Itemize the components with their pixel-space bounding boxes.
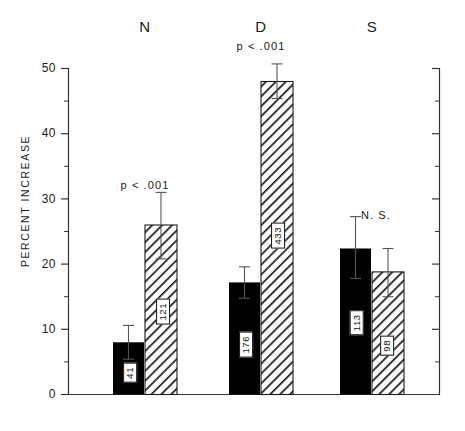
- y-tick-label-10: 10: [30, 322, 56, 336]
- bar-value-label-n-black: 41: [123, 363, 137, 383]
- y-tick-label-20: 20: [30, 257, 56, 271]
- bar-value-label-d-hatched: 433: [271, 223, 285, 249]
- annotation-d: p < .001: [201, 40, 321, 52]
- y-tick-label-0: 0: [30, 387, 56, 401]
- bar-value-label-s-black: 113: [350, 310, 364, 335]
- bar-chart-figure: PERCENT INCREASE 0 10 20 30 40 50 N D S …: [0, 0, 465, 431]
- y-tick-label-30: 30: [30, 192, 56, 206]
- bar-value-label-n-hatched: 121: [156, 299, 170, 325]
- group-label-s: S: [342, 18, 402, 35]
- annotation-s: N. S.: [316, 209, 436, 221]
- group-label-n: N: [115, 18, 175, 35]
- y-tick-label-40: 40: [30, 126, 56, 140]
- group-label-d: D: [231, 18, 291, 35]
- y-axis-minor-ticks: [64, 101, 68, 362]
- bar-value-label-d-black: 176: [239, 332, 253, 358]
- bar-value-label-s-hatched: 98: [380, 336, 394, 356]
- annotation-n: p < .001: [85, 179, 205, 191]
- y-tick-label-50: 50: [30, 61, 56, 75]
